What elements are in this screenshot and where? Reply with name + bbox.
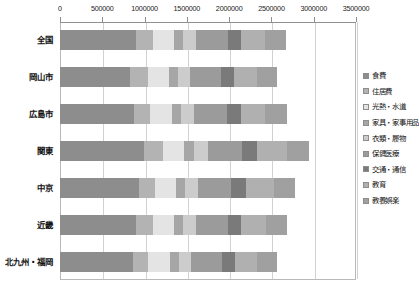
category-label: 中京 <box>0 183 53 193</box>
bar-segment <box>185 178 199 198</box>
legend-label: 保健医療 <box>372 149 399 158</box>
bar-segment <box>163 141 184 161</box>
legend-swatch-icon <box>363 73 369 79</box>
x-tick-label: 1000000 <box>131 4 158 13</box>
x-tick-label: 2000000 <box>216 4 243 13</box>
legend-item[interactable]: 保健医療 <box>363 146 418 162</box>
bar-row <box>60 67 356 87</box>
bar-segment <box>194 141 208 161</box>
bar-segment <box>169 67 177 87</box>
bar-segment <box>287 141 309 161</box>
gridline <box>357 22 358 279</box>
bar-segment <box>60 30 136 50</box>
bar-segment <box>153 215 175 235</box>
bar-segment <box>241 104 266 124</box>
x-tick-label: 1500000 <box>174 4 201 13</box>
bar-segment <box>60 252 133 272</box>
bar-segment <box>148 67 169 87</box>
bar-segment <box>235 252 256 272</box>
bar-segment <box>184 141 194 161</box>
legend-item[interactable]: 教養娯楽 <box>363 193 418 209</box>
legend-item[interactable]: 住居費 <box>363 84 418 100</box>
category-label: 全国 <box>0 35 53 45</box>
bar-segment <box>234 67 257 87</box>
category-label: 北九州・福岡 <box>0 257 53 267</box>
bar-segment <box>130 67 148 87</box>
x-tick-label: 0 <box>58 4 62 13</box>
legend-item[interactable]: 光熱・水道 <box>363 99 418 115</box>
bar-row <box>60 215 356 235</box>
bar-segment <box>190 67 221 87</box>
legend-swatch-icon <box>363 151 369 157</box>
tick-mark <box>356 17 357 22</box>
x-axis-line <box>60 22 356 23</box>
bar-segment <box>174 30 183 50</box>
chart-legend: 食費住居費光熱・水道家具・家事用品衣類・履物保健医療交通・通信教育教養娯楽 <box>363 68 418 208</box>
bar-segment <box>242 141 257 161</box>
legend-swatch-icon <box>363 135 369 141</box>
x-tick-label: 3000000 <box>300 4 327 13</box>
bar-segment <box>60 67 130 87</box>
bar-segment <box>155 178 176 198</box>
tick-mark <box>60 17 61 22</box>
legend-item[interactable]: 衣類・履物 <box>363 130 418 146</box>
bar-segment <box>241 30 265 50</box>
x-tick-label: 500000 <box>91 4 114 13</box>
legend-item[interactable]: 交通・通信 <box>363 162 418 178</box>
category-label: 近畿 <box>0 220 53 230</box>
bar-segment <box>194 104 227 124</box>
bar-row <box>60 252 356 272</box>
bar-segment <box>266 215 287 235</box>
bar-segment <box>198 178 231 198</box>
bar-segment <box>153 30 174 50</box>
category-label: 広島市 <box>0 109 53 119</box>
legend-label: 住居費 <box>372 87 392 96</box>
bar-segment <box>136 215 152 235</box>
bar-segment <box>60 178 139 198</box>
legend-label: 家具・家事用品 <box>372 118 419 127</box>
bar-segment <box>176 178 185 198</box>
bar-segment <box>139 178 155 198</box>
bar-segment <box>231 178 245 198</box>
tick-mark <box>314 17 315 22</box>
x-tick-label: 3500000 <box>343 4 370 13</box>
bar-segment <box>172 104 181 124</box>
bar-segment <box>265 104 287 124</box>
bar-segment <box>183 30 196 50</box>
legend-label: 光熱・水道 <box>372 102 406 111</box>
legend-label: 食費 <box>372 71 385 80</box>
bar-segment <box>183 215 196 235</box>
bar-segment <box>133 252 149 272</box>
bar-segment <box>134 104 149 124</box>
bar-segment <box>174 215 183 235</box>
bar-row <box>60 30 356 50</box>
bar-segment <box>208 141 242 161</box>
bar-segment <box>257 252 277 272</box>
legend-swatch-icon <box>363 104 369 110</box>
bar-segment <box>265 30 286 50</box>
category-label: 岡山市 <box>0 72 53 82</box>
tick-mark <box>271 17 272 22</box>
bar-segment <box>246 178 274 198</box>
legend-label: 交通・通信 <box>372 165 406 174</box>
bar-row <box>60 141 356 161</box>
category-label: 関東 <box>0 146 53 156</box>
bar-segment <box>221 67 234 87</box>
tick-mark <box>145 17 146 22</box>
bar-segment <box>181 104 194 124</box>
bar-segment <box>170 252 178 272</box>
legend-swatch-icon <box>363 88 369 94</box>
bar-row <box>60 178 356 198</box>
legend-item[interactable]: 教育 <box>363 177 418 193</box>
bar-segment <box>257 67 277 87</box>
legend-item[interactable]: 家具・家事用品 <box>363 115 418 131</box>
bar-segment <box>241 215 266 235</box>
legend-item[interactable]: 食費 <box>363 68 418 84</box>
bar-segment <box>274 178 295 198</box>
bar-segment <box>196 215 228 235</box>
bar-segment <box>191 252 222 272</box>
legend-label: 教養娯楽 <box>372 196 399 205</box>
bar-segment <box>228 30 242 50</box>
legend-label: 衣類・履物 <box>372 134 406 143</box>
